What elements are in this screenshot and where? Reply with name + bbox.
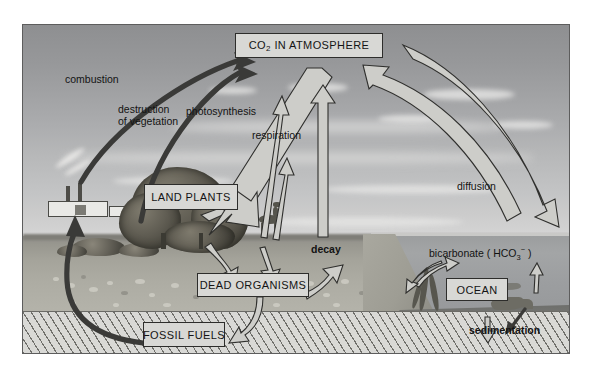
decay-arrow xyxy=(305,265,343,299)
bicarbonate-text: bicarbonate ( HCO xyxy=(429,247,517,259)
dead-organisms-label: DEAD ORGANISMS xyxy=(200,279,306,291)
fossil-fuels-label: FOSSIL FUELS xyxy=(143,329,225,341)
bicarbonate-tail: ) xyxy=(525,247,531,259)
atmosphere-label: CO2 IN ATMOSPHERE xyxy=(249,39,369,53)
destruction-line-1: destruction xyxy=(118,103,169,115)
diffusion-arrow xyxy=(403,45,559,227)
fossil-fuels-to-combustion-arrow-head xyxy=(66,215,85,237)
reservoir-box-atmosphere[interactable]: CO2 IN ATMOSPHERE xyxy=(235,33,383,58)
screenshot-canvas: CO2 IN ATMOSPHERE LAND PLANTS DEAD ORGAN… xyxy=(0,0,589,366)
destruction-of-vegetation-label: destruction of vegetation xyxy=(118,103,178,127)
bicarbonate-up-arrow xyxy=(530,263,543,293)
respiration-label: respiration xyxy=(252,129,301,141)
reservoir-box-fossil-fuels[interactable]: FOSSIL FUELS xyxy=(143,322,225,347)
reservoir-box-ocean[interactable]: OCEAN xyxy=(446,278,508,301)
decay-label: decay xyxy=(311,243,341,255)
diffusion-label: diffusion xyxy=(457,180,496,192)
ocean-label: OCEAN xyxy=(456,284,497,296)
carbon-cycle-figure: CO2 IN ATMOSPHERE LAND PLANTS DEAD ORGAN… xyxy=(22,24,570,354)
photosynthesis-label: photosynthesis xyxy=(186,105,256,117)
reservoir-box-land-plants[interactable]: LAND PLANTS xyxy=(144,184,238,210)
destruction-line-2: of vegetation xyxy=(118,115,178,127)
bicarbonate-label: bicarbonate ( HCO3− ) xyxy=(429,244,532,264)
reservoir-box-dead-organisms[interactable]: DEAD ORGANISMS xyxy=(197,273,309,297)
land-plants-label: LAND PLANTS xyxy=(151,191,231,203)
decay-to-atmosphere-arrow xyxy=(311,85,335,237)
ocean-to-atmosphere-arrow xyxy=(363,65,521,221)
fossil-fuels-to-combustion-arrow xyxy=(67,231,143,343)
dead-organisms-to-fossil-fuels-arrow xyxy=(229,297,263,343)
combustion-label: combustion xyxy=(65,73,119,85)
sedimentation-label: sedimentation xyxy=(469,324,540,336)
